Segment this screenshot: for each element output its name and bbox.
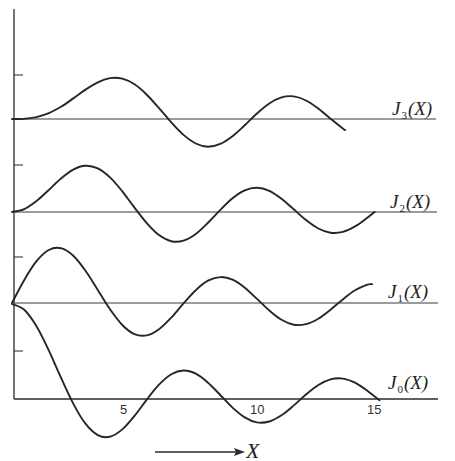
bessel-function-chart	[0, 0, 455, 461]
curve-j2	[12, 166, 375, 242]
label-j0-main: J	[388, 372, 396, 393]
curve-j1	[12, 248, 372, 336]
label-j3-subscript: 3	[401, 109, 407, 121]
x-tick-label-10: 10	[250, 403, 264, 416]
label-j3-arg: (X)	[408, 98, 432, 119]
label-j0-subscript: 0	[397, 383, 403, 395]
x-tick-label-15: 15	[367, 403, 381, 416]
curve-j3	[12, 78, 345, 147]
label-j2-arg: (X)	[406, 191, 430, 212]
label-j1-subscript: 1	[397, 292, 403, 304]
label-j2: J2(X)	[390, 192, 430, 211]
label-j1: J1(X)	[388, 282, 428, 301]
label-j3-main: J	[392, 98, 400, 119]
x-tick-label-5: 5	[120, 403, 127, 416]
curve-j0	[12, 304, 380, 437]
label-j1-main: J	[388, 281, 396, 302]
label-j3: J3(X)	[392, 99, 432, 118]
label-j2-subscript: 2	[399, 202, 405, 214]
label-j1-arg: (X)	[404, 281, 428, 302]
label-j0: J0(X)	[388, 373, 428, 392]
label-j0-arg: (X)	[404, 372, 428, 393]
label-j2-main: J	[390, 191, 398, 212]
x-axis-label: X	[246, 440, 259, 461]
